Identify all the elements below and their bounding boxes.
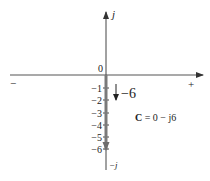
origin-label: 0 [98,63,103,74]
tick-label: −1 [91,83,102,94]
tick-label: −6 [91,144,102,155]
phasor-name: C [135,112,142,123]
tick-label: −3 [91,108,102,119]
tick-label: −2 [91,95,102,106]
magnitude-label: −6 [121,86,136,101]
phasor-value: = 0 − j6 [142,112,176,123]
tick-labels: −1 −2 −3 −4 −5 −6 [91,83,102,155]
complex-plane-diagram: j 0 − + −j −1 −2 −3 −4 −5 −6 −6 C = 0 − … [0,0,210,181]
tick-label: −5 [91,132,102,143]
real-negative-label: − [10,77,16,89]
imag-positive-label: j [110,8,115,20]
phasor-equation: C = 0 − j6 [135,112,176,123]
real-positive-label: + [188,78,194,90]
imag-negative-label: −j [109,160,118,170]
tick-label: −4 [91,120,102,131]
